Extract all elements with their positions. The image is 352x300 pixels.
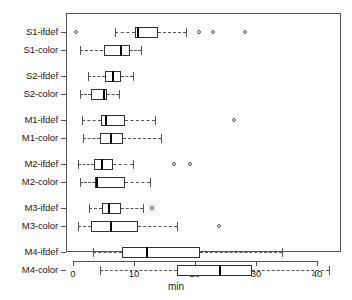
boxplot-lower-whisker [93, 252, 122, 253]
boxplot-lower-whisker-cap [80, 90, 81, 99]
boxplot-upper-whisker-cap [329, 266, 330, 275]
boxplot-upper-whisker [125, 120, 155, 121]
boxplot-upper-whisker-cap [155, 116, 156, 125]
y-axis-tick [61, 76, 66, 77]
boxplot-upper-whisker [138, 226, 177, 227]
boxplot-box [91, 221, 137, 232]
y-axis-category-label: M3-ifdef [0, 203, 58, 213]
boxplot-upper-whisker [107, 94, 119, 95]
boxplot-median-line [146, 247, 148, 258]
boxplot-median-line [110, 221, 112, 232]
boxplot-median-line [103, 89, 105, 100]
boxplot-upper-whisker-cap [150, 178, 151, 187]
boxplot-lower-whisker-cap [80, 178, 81, 187]
boxplot-upper-whisker-cap [133, 72, 134, 81]
boxplot-lower-whisker [88, 76, 105, 77]
boxplot-upper-whisker-cap [141, 46, 142, 55]
boxplot-upper-whisker-cap [282, 248, 283, 257]
y-axis-tick [61, 32, 66, 33]
boxplot-median-line [137, 27, 139, 38]
x-axis-title: min [0, 281, 352, 292]
boxplot-upper-whisker [121, 208, 142, 209]
boxplot-upper-whisker [130, 50, 141, 51]
boxplot-lower-whisker-cap [83, 134, 84, 143]
boxplot-upper-whisker [252, 270, 329, 271]
boxplot-upper-whisker [123, 138, 161, 139]
boxplot-lower-whisker [78, 226, 91, 227]
y-axis-tick [61, 50, 66, 51]
y-axis-tick [61, 94, 66, 95]
boxplot-box [94, 159, 112, 170]
y-axis-tick [61, 164, 66, 165]
boxplot-median-line [219, 265, 221, 276]
boxplot-lower-whisker [115, 32, 135, 33]
y-axis-tick [61, 120, 66, 121]
y-axis-category-label: M2-ifdef [0, 159, 58, 169]
boxplot-box [177, 265, 252, 276]
boxplot-lower-whisker-cap [78, 222, 79, 231]
boxplot-median-line [105, 115, 107, 126]
y-axis-tick [61, 270, 66, 271]
boxplot-lower-whisker [80, 94, 92, 95]
boxplot-lower-whisker-cap [89, 204, 90, 213]
boxplot-lower-whisker-cap [88, 72, 89, 81]
x-axis-line [73, 261, 318, 262]
boxplot-upper-whisker-cap [119, 90, 120, 99]
y-axis-category-label: S1-color [0, 45, 58, 55]
y-axis-category-label: M4-ifdef [0, 247, 58, 257]
boxplot-box [122, 247, 200, 258]
y-axis-tick [61, 182, 66, 183]
boxplot-lower-whisker [78, 164, 94, 165]
boxplot-upper-whisker-cap [186, 28, 187, 37]
y-axis-category-label: S2-color [0, 89, 58, 99]
boxplot-lower-whisker [80, 50, 103, 51]
y-axis-tick [61, 226, 66, 227]
boxplot-box [95, 177, 126, 188]
boxplot-upper-whisker [121, 76, 133, 77]
y-axis-category-label: S2-ifdef [0, 71, 58, 81]
y-axis-category-label: M4-color [0, 265, 58, 275]
y-axis-category-label: M2-color [0, 177, 58, 187]
boxplot-lower-whisker [82, 120, 101, 121]
y-axis-category-label: M1-color [0, 133, 58, 143]
boxplot-upper-whisker [113, 164, 133, 165]
boxplot-figure: 010203040S1-ifdefS1-colorS2-ifdefS2-colo… [0, 0, 352, 300]
boxplot-upper-whisker-cap [143, 204, 144, 213]
y-axis-category-label: M1-ifdef [0, 115, 58, 125]
boxplot-upper-whisker [158, 32, 186, 33]
y-axis-tick [61, 252, 66, 253]
boxplot-lower-whisker [100, 270, 176, 271]
boxplot-lower-whisker-cap [78, 160, 79, 169]
boxplot-upper-whisker-cap [177, 222, 178, 231]
boxplot-median-line [112, 71, 114, 82]
boxplot-median-line [96, 177, 98, 188]
y-axis-category-label: M3-color [0, 221, 58, 231]
x-axis-tick-label: 0 [70, 268, 75, 279]
boxplot-lower-whisker [80, 182, 95, 183]
boxplot-median-line [108, 203, 110, 214]
boxplot-lower-whisker-cap [115, 28, 116, 37]
boxplot-lower-whisker [83, 138, 99, 139]
boxplot-lower-whisker-cap [82, 116, 83, 125]
boxplot-median-line [101, 159, 103, 170]
boxplot-median-line [110, 133, 112, 144]
y-axis-tick [61, 208, 66, 209]
boxplot-upper-whisker-cap [133, 160, 134, 169]
boxplot-upper-whisker [125, 182, 149, 183]
y-axis-tick [61, 138, 66, 139]
boxplot-median-line [120, 45, 122, 56]
boxplot-lower-whisker-cap [80, 46, 81, 55]
boxplot-outlier-point [197, 30, 201, 34]
boxplot-lower-whisker-cap [100, 266, 101, 275]
y-axis-category-label: S1-ifdef [0, 27, 58, 37]
boxplot-lower-whisker-cap [93, 248, 94, 257]
boxplot-lower-whisker [89, 208, 102, 209]
boxplot-box [104, 45, 130, 56]
boxplot-box [102, 203, 121, 214]
boxplot-upper-whisker-cap [161, 134, 162, 143]
boxplot-outlier-point [243, 30, 247, 34]
boxplot-outlier-point [232, 118, 236, 122]
boxplot-outlier-point [217, 224, 221, 228]
boxplot-upper-whisker [200, 252, 282, 253]
